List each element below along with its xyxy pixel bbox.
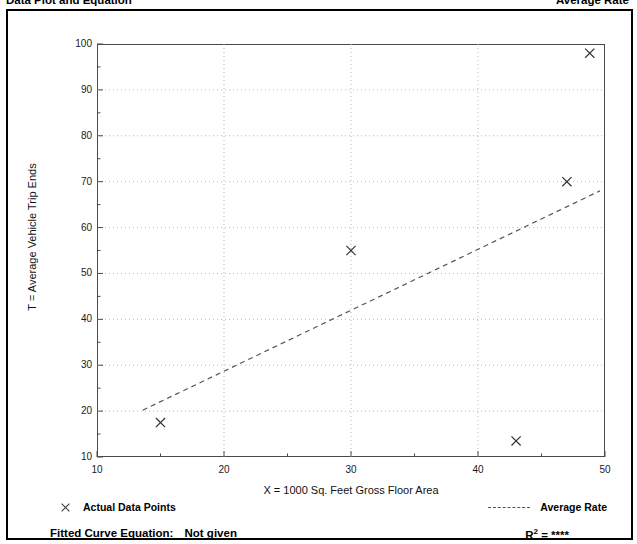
dashed-line-icon [488,507,530,508]
y-tick-label: 100 [58,39,92,49]
x-axis-title: X = 1000 Sq. Feet Gross Floor Area [97,484,605,496]
scatter-plot-svg [97,44,605,457]
header-right-label: Average Rate [556,0,629,7]
x-tick-label: 40 [458,465,498,475]
legend-label-average-rate: Average Rate [540,501,607,513]
y-tick-label: 80 [58,131,92,141]
x-tick-label: 20 [204,465,244,475]
r-squared-label: R [525,529,533,541]
legend-item-data-points: Actual Data Points [60,501,176,513]
r-squared-value: **** [551,529,569,541]
r-squared-equals: = [541,529,548,541]
header-strip: Data Plot and Equation Average Rate [0,0,637,9]
x-marker-icon [60,502,71,513]
data-point-markers [156,49,594,446]
page-title: Data Plot and Equation [6,0,132,7]
y-axis-title: T = Average Vehicle Trip Ends [26,137,38,337]
x-axis-tick-labels: 1020304050 [97,465,605,479]
y-tick-label: 20 [58,406,92,416]
equation-row: Fitted Curve Equation: Not given R2 = **… [8,527,635,544]
y-tick-label: 60 [58,223,92,233]
legend-item-average-rate: Average Rate [488,501,607,513]
y-tick-label: 90 [58,85,92,95]
x-tick-label: 30 [331,465,371,475]
y-tick-label: 30 [58,360,92,370]
legend-label-data-points: Actual Data Points [83,501,176,513]
r-squared-exponent: 2 [534,527,538,536]
y-tick-label: 10 [58,452,92,462]
average-rate-trendline [143,191,600,410]
plot-area-wrapper [97,44,605,457]
fitted-curve-equation: Fitted Curve Equation: Not given [50,527,237,539]
r-squared-statistic: R2 = **** [525,527,569,541]
y-tick-label: 70 [58,177,92,187]
x-tick-label: 50 [585,465,625,475]
y-tick-label: 40 [58,314,92,324]
y-tick-label: 50 [58,268,92,278]
chart-legend: Actual Data Points Average Rate [8,501,635,521]
x-tick-label: 10 [77,465,117,475]
y-axis-tick-labels: 102030405060708090100 [56,44,92,457]
chart-panel: 102030405060708090100 1020304050 X = 100… [6,9,633,540]
fitted-curve-value: Not given [185,527,237,539]
fitted-curve-label: Fitted Curve Equation: [50,527,173,539]
